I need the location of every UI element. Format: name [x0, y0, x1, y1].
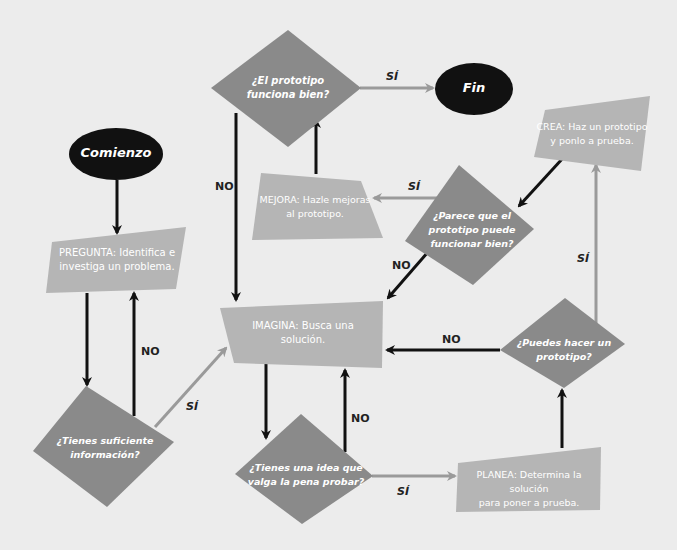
plan-label: PLANEA: Determina la solución para poner…: [456, 468, 602, 510]
edge-label-works-no: NO: [215, 180, 234, 193]
idea-worth-label-line2: valga la pena probar?: [245, 475, 367, 489]
seems-work-label-line3: funcionar bien?: [426, 237, 518, 251]
ask-label-line2: investiga un problema.: [50, 260, 184, 274]
edge-label-info-no: NO: [141, 345, 160, 358]
edge-label-proto-no: NO: [442, 333, 461, 346]
ask-label-line1: PREGUNTA: Identifica e: [50, 246, 184, 260]
idea-worth-label-line1: ¿Tienes una idea que: [245, 461, 367, 475]
plan-label-line1: PLANEA: Determina la solución: [456, 468, 602, 496]
edge-label-proto-yes: SÍ: [577, 252, 589, 265]
create-label: CREA: Haz un prototipo y ponlo a prueba.: [536, 120, 648, 148]
enough-info-label-line2: información?: [50, 448, 160, 462]
edge-label-seems-no: NO: [392, 259, 411, 272]
improve-label-line2: al prototipo.: [255, 207, 375, 221]
ask-label: PREGUNTA: Identifica e investiga un prob…: [50, 246, 184, 274]
edge-label-idea-no: NO: [351, 412, 370, 425]
enough-info-label: ¿Tienes suficiente información?: [50, 434, 160, 462]
enough-info-label-line1: ¿Tienes suficiente: [50, 434, 160, 448]
arrow-info-yes-to-imagine: [155, 348, 226, 427]
start-label: Comienzo: [70, 145, 162, 160]
works-well-label-line1: ¿El prototipo: [240, 74, 336, 88]
works-well-label-line2: funciona bien?: [240, 88, 336, 102]
works-well-label: ¿El prototipo funciona bien?: [240, 74, 336, 102]
create-label-line2: y ponlo a prueba.: [536, 134, 648, 148]
improve-label-line1: MEJORA: Hazle mejoras: [255, 193, 375, 207]
can-prototype-label-line1: ¿Puedes hacer un: [512, 336, 616, 350]
end-label: Fin: [436, 80, 512, 95]
can-prototype-label-line2: prototipo?: [512, 350, 616, 364]
arrow-create-to-seems: [519, 158, 563, 206]
edge-label-info-yes: SÍ: [186, 400, 198, 413]
seems-work-label-line2: prototipo puede: [426, 223, 518, 237]
can-prototype-label: ¿Puedes hacer un prototipo?: [512, 336, 616, 364]
create-label-line1: CREA: Haz un prototipo: [536, 120, 648, 134]
edge-label-seems-yes: SÍ: [408, 180, 420, 193]
improve-label: MEJORA: Hazle mejoras al prototipo.: [255, 193, 375, 221]
edge-label-works-yes: SÍ: [386, 70, 398, 83]
idea-worth-label: ¿Tienes una idea que valga la pena proba…: [245, 461, 367, 489]
plan-label-line2: para poner a prueba.: [456, 496, 602, 510]
seems-work-label-line1: ¿Parece que el: [426, 209, 518, 223]
edge-label-idea-yes: SÍ: [397, 485, 409, 498]
imagine-label-line1: IMAGINA: Busca una: [228, 319, 378, 333]
imagine-label-line2: solución.: [228, 333, 378, 347]
imagine-label: IMAGINA: Busca una solución.: [228, 319, 378, 347]
seems-work-label: ¿Parece que el prototipo puede funcionar…: [426, 209, 518, 251]
